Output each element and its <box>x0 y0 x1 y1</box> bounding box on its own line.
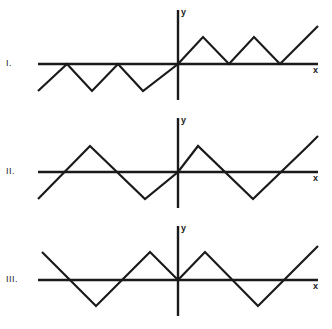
graph-panel-2: II. y x <box>0 110 332 220</box>
x-axis-label-3: x <box>313 282 318 291</box>
x-axis-label-2: x <box>313 174 318 183</box>
y-axis-label-3: y <box>181 224 186 233</box>
triangle-wave-figure: I. y x II. y x III. y x <box>0 0 332 329</box>
graph-plot-1 <box>0 0 332 110</box>
y-axis-label-1: y <box>181 8 186 17</box>
graph-plot-2 <box>0 110 332 220</box>
graph-panel-1: I. y x <box>0 0 332 110</box>
y-axis-label-2: y <box>181 116 186 125</box>
wave-curve-3 <box>42 246 318 306</box>
graph-panel-3: III. y x <box>0 219 332 329</box>
x-axis-label-1: x <box>313 66 318 75</box>
graph-plot-3 <box>0 219 332 329</box>
